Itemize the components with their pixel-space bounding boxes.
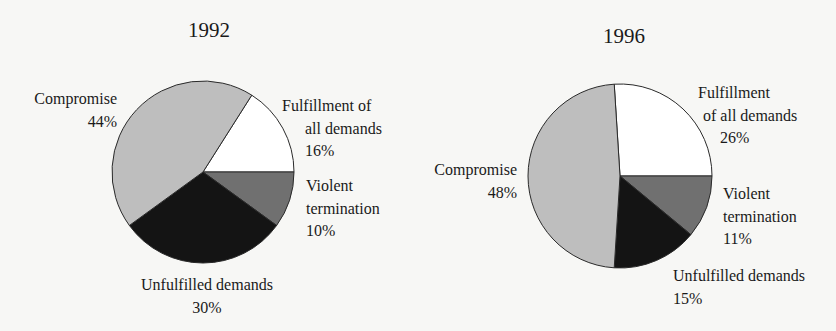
label-violent-1992: Violent termination 10% bbox=[306, 175, 380, 243]
pie-1992 bbox=[112, 81, 294, 263]
chart-title-1996: 1996 bbox=[603, 24, 645, 49]
label-compromise-1996: Compromise 48% bbox=[400, 159, 517, 204]
label-compromise-1992: Compromise 44% bbox=[0, 88, 117, 133]
label-unfulfilled-1996: Unfulfilled demands 15% bbox=[673, 265, 805, 310]
slice-compromise bbox=[528, 84, 620, 268]
label-violent-1996: Violent termination 11% bbox=[723, 183, 797, 251]
label-fulfillment-1992: Fulfillment of all demands 16% bbox=[282, 95, 382, 163]
label-unfulfilled-1992: Unfulfilled demands 30% bbox=[141, 274, 273, 319]
label-fulfillment-1996: Fulfillment of all demands 26% bbox=[698, 82, 797, 150]
chart-title-1992: 1992 bbox=[188, 18, 230, 43]
pie-1996 bbox=[528, 84, 712, 268]
